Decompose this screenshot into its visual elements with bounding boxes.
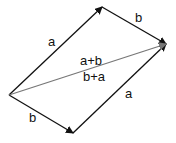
- label-sum-bottom: b+a: [83, 70, 105, 83]
- label-b-bottom: b: [29, 111, 36, 124]
- label-a-top: a: [48, 35, 55, 48]
- label-sum-top: a+b: [80, 54, 102, 67]
- vector-b-bottom: [9, 95, 73, 133]
- vector-b-top: [102, 7, 166, 44]
- label-a-bottom: a: [125, 87, 132, 100]
- label-b-top: b: [135, 11, 142, 24]
- vector-addition-diagram: a b b a a+b b+a: [0, 0, 176, 143]
